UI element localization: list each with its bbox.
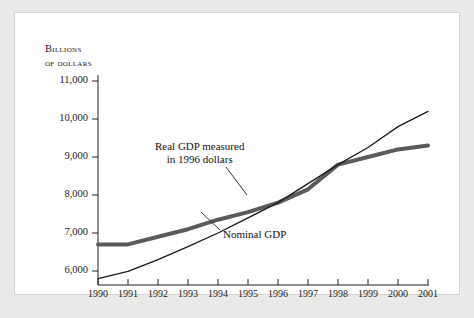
x-tick-label: 1990: [81, 288, 115, 299]
x-tick-label: 1993: [171, 288, 205, 299]
x-tick-label: 2000: [381, 288, 415, 299]
real-gdp-annotation-line2: in 1996 dollars: [155, 153, 244, 166]
y-tick-label: 6,000: [42, 264, 88, 275]
y-tick-label: 11,000: [42, 74, 88, 85]
axis-ticks: [92, 81, 428, 285]
x-tick-label: 1992: [141, 288, 175, 299]
x-tick-label: 2001: [411, 288, 445, 299]
x-tick-label: 1991: [111, 288, 145, 299]
data-series: [98, 111, 428, 278]
x-tick-label: 1996: [261, 288, 295, 299]
x-tick-label: 1997: [291, 288, 325, 299]
x-tick-label: 1994: [201, 288, 235, 299]
x-tick-label: 1999: [351, 288, 385, 299]
chart-card: Billions of dollars 6,0007,0008,0009,000…: [14, 12, 460, 295]
real-gdp-annotation-line1: Real GDP measured: [155, 140, 244, 153]
real-gdp-annotation: Real GDP measured in 1996 dollars: [155, 140, 244, 166]
y-tick-label: 10,000: [42, 112, 88, 123]
nominal-gdp-annotation: Nominal GDP: [223, 228, 286, 241]
y-tick-label: 7,000: [42, 226, 88, 237]
annotation-leaders: [201, 167, 247, 230]
x-tick-label: 1998: [321, 288, 355, 299]
x-tick-label: 1995: [231, 288, 265, 299]
nominal-gdp-annotation-line1: Nominal GDP: [223, 228, 286, 241]
y-tick-label: 9,000: [42, 150, 88, 161]
y-tick-label: 8,000: [42, 188, 88, 199]
chart-axes: [98, 75, 429, 285]
